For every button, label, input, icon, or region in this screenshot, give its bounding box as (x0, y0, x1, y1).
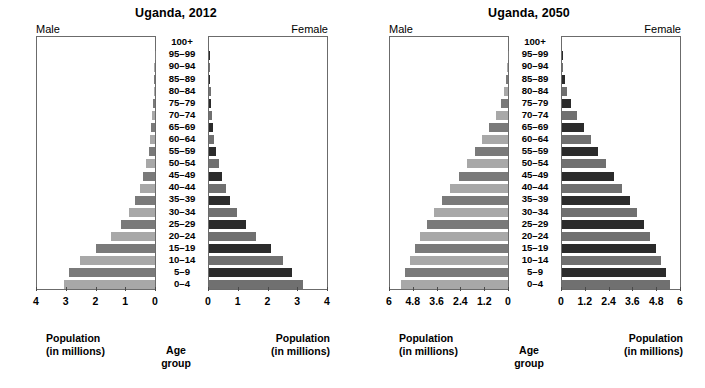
male-bar-row (390, 122, 508, 134)
male-bar-row (390, 61, 508, 73)
axis-tick (208, 287, 209, 291)
male-bar-row (390, 49, 508, 61)
male-bar (154, 87, 155, 96)
male-bar-row (37, 243, 155, 255)
age-group-label: 50–54 (156, 157, 208, 169)
male-bar-row (390, 158, 508, 170)
age-group-label: 80–84 (509, 84, 561, 96)
female-side-label: Female (644, 23, 681, 35)
axis-tick-label: 1.2 (577, 295, 592, 307)
male-bar-row (37, 61, 155, 73)
male-bar (467, 159, 508, 168)
age-group-label: 35–39 (509, 193, 561, 205)
female-bar (562, 51, 563, 60)
chart-panel-uganda-2050: Uganda, 2050 Male Female 100+95–9990–948… (353, 0, 705, 388)
axis-tick-label: 1.2 (477, 295, 492, 307)
female-bar (562, 232, 650, 241)
male-bar (111, 232, 155, 241)
age-group-label: 20–24 (156, 230, 208, 242)
female-bar-row (562, 61, 680, 73)
female-bar (209, 184, 226, 193)
male-bar-row (390, 267, 508, 279)
age-group-label: 60–64 (509, 133, 561, 145)
age-group-label: 0–4 (156, 278, 208, 290)
male-bar-row (390, 97, 508, 109)
axis-tick (66, 287, 67, 291)
male-bar-row (390, 231, 508, 243)
female-bar-row (209, 146, 327, 158)
axis-tick (680, 287, 681, 291)
age-group-label: 70–74 (509, 109, 561, 121)
female-bar (209, 268, 292, 277)
female-bar (209, 75, 210, 84)
male-bar-row (37, 218, 155, 230)
male-bar-row (37, 110, 155, 122)
male-bar-row (37, 122, 155, 134)
axis-tick (327, 287, 328, 291)
age-group-column: 100+95–9990–9485–8980–8475–7970–7465–696… (156, 36, 208, 290)
axis-tick-label: 6 (386, 295, 392, 307)
female-bar-row (209, 37, 327, 49)
age-group-label: 95–99 (509, 48, 561, 60)
age-group-label: 80–84 (156, 84, 208, 96)
axis-tick (96, 287, 97, 291)
male-bar-row (390, 279, 508, 291)
age-group-caption: Age group (0, 344, 352, 371)
male-bar (415, 244, 508, 253)
age-group-label: 85–89 (156, 72, 208, 84)
axis-tick (389, 287, 390, 291)
female-bar (562, 220, 644, 229)
female-plot-half (561, 36, 681, 290)
female-bar-row (562, 231, 680, 243)
female-bar (562, 208, 637, 217)
female-bars (209, 37, 327, 289)
female-bar-row (209, 73, 327, 85)
axis-tick (561, 287, 562, 291)
female-bar (562, 159, 606, 168)
chart-title: Uganda, 2050 (353, 6, 705, 20)
female-bar-row (209, 158, 327, 170)
male-bar (121, 220, 155, 229)
population-pyramid-figure: Uganda, 2012 Male Female 100+95–9990–948… (0, 0, 705, 388)
plot-area: 100+95–9990–9485–8980–8475–7970–7465–696… (0, 36, 352, 308)
axis-tick-label: 4 (324, 295, 330, 307)
age-group-label: 25–29 (509, 217, 561, 229)
age-group-label: 30–34 (509, 205, 561, 217)
female-bar-row (562, 134, 680, 146)
female-bar (209, 147, 216, 156)
male-bar (450, 184, 508, 193)
male-bar-row (37, 49, 155, 61)
axis-tick-label: 0 (558, 295, 564, 307)
female-bar-row (209, 85, 327, 97)
age-group-label: 45–49 (509, 169, 561, 181)
female-bar-row (562, 182, 680, 194)
male-bar-row (37, 231, 155, 243)
male-bar (489, 123, 508, 132)
male-bar (149, 147, 155, 156)
female-bar-row (209, 255, 327, 267)
female-bar (209, 244, 271, 253)
axis-tick (238, 287, 239, 291)
male-bars (390, 37, 508, 289)
axis-tick-label: 2.4 (453, 295, 468, 307)
female-bar (209, 220, 246, 229)
axis-tick-label: 1 (122, 295, 128, 307)
female-side-label: Female (291, 23, 328, 35)
age-group-label: 100+ (156, 36, 208, 48)
age-group-label: 90–94 (509, 60, 561, 72)
male-bar-row (390, 206, 508, 218)
female-plot-half (208, 36, 328, 290)
female-bar (209, 111, 212, 120)
male-bar-row (37, 194, 155, 206)
female-bar (562, 63, 563, 72)
male-bar (153, 99, 155, 108)
female-bar (562, 135, 591, 144)
axis-tick (36, 287, 37, 291)
female-bar-row (562, 73, 680, 85)
male-bar-row (390, 218, 508, 230)
female-bar (562, 99, 571, 108)
age-group-label: 30–34 (156, 205, 208, 217)
female-bar (209, 196, 230, 205)
age-group-label: 60–64 (156, 133, 208, 145)
male-bar-row (37, 134, 155, 146)
